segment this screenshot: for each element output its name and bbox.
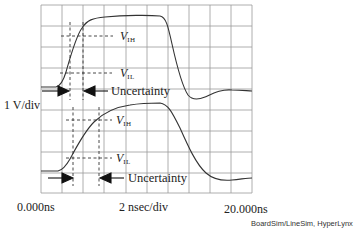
lower-threshold-markers [66,107,112,186]
scope-plot [0,0,356,234]
x-end-label: 20.000ns [224,203,268,215]
lower-vil-label: VIL [116,152,131,166]
arrow-left-icon [84,86,95,96]
upper-threshold-markers [60,22,113,100]
lower-vih-label: VIH [116,114,131,128]
lower-uncertainty-arrows [48,173,124,183]
arrow-left-icon [100,173,111,183]
credit-text: BoardSim/LineSim, HyperLynx [251,219,353,228]
lower-uncertainty-label: Uncertainty [128,172,187,185]
arrow-right-icon [62,173,73,183]
upper-vih-label: VIH [120,30,135,44]
arrow-right-icon [58,86,69,96]
x-scale-label: 2 nsec/div [119,201,168,213]
y-scale-label: 1 V/div [4,99,40,111]
upper-uncertainty-label: Uncertainty [111,85,170,98]
x-start-label: 0.000ns [17,201,55,213]
upper-vil-label: VIL [120,67,135,81]
waveform-figure: VIH VIL Uncertainty VIH VIL Uncertainty … [0,0,356,234]
